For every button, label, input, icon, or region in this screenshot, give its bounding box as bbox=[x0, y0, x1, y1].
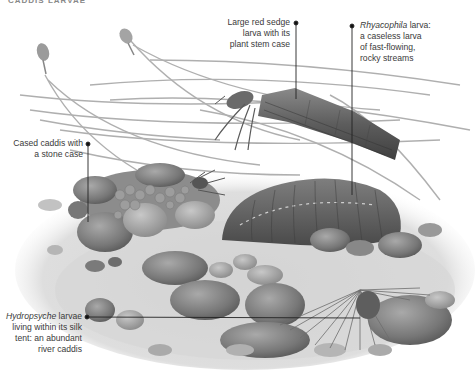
label-red-sedge-line3: plant stem case bbox=[200, 39, 290, 50]
label-hydropsyche-line1: Hydropsyche larvae bbox=[0, 311, 82, 322]
caddis-larvae-illustration: CADDIS LARVAE bbox=[0, 0, 475, 376]
label-hydropsyche-line2: living within its silk bbox=[0, 322, 82, 333]
pointer-hydropsyche bbox=[87, 317, 360, 318]
label-hydropsyche: Hydropsyche larvae living within its sil… bbox=[0, 311, 82, 355]
label-hydropsyche-line4: river caddis bbox=[0, 344, 82, 355]
label-red-sedge-line2: larva with its bbox=[200, 28, 290, 39]
label-rhyacophila: Rhyacophila larva: a caseless larva of f… bbox=[360, 20, 472, 64]
label-rhyacophila-line4: rocky streams bbox=[360, 53, 472, 64]
label-cased-caddis-line1: Cased caddis with bbox=[2, 138, 83, 149]
label-cased-caddis-line2: a stone case bbox=[2, 149, 83, 160]
label-rhyacophila-line3: of fast-flowing, bbox=[360, 42, 472, 53]
species-name-hydropsyche: Hydropsyche bbox=[6, 311, 56, 321]
label-rhyacophila-line2: a caseless larva bbox=[360, 31, 472, 42]
label-cased-caddis: Cased caddis with a stone case bbox=[2, 138, 83, 160]
label-rhyacophila-line1: Rhyacophila larva: bbox=[360, 20, 472, 31]
species-name-rhyacophila: Rhyacophila bbox=[360, 20, 407, 30]
label-red-sedge-line1: Large red sedge bbox=[200, 17, 290, 28]
label-red-sedge: Large red sedge larva with its plant ste… bbox=[200, 17, 290, 50]
label-hydropsyche-line1-rest: larvae bbox=[56, 311, 82, 321]
label-rhyacophila-line1-rest: larva: bbox=[407, 20, 430, 30]
label-hydropsyche-line3: tent: an abundant bbox=[0, 333, 82, 344]
